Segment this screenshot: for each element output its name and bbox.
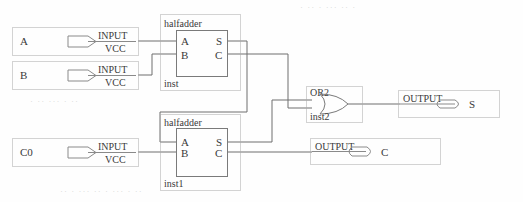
input-b-signal-label: B [20,69,27,81]
output-s-type-label: OUTPUT [403,93,442,104]
input-b-power-label: VCC [105,77,126,88]
wire-b-to-inst-b [138,54,176,75]
halfadder-inst-port-a-label: A [181,35,189,47]
halfadder-inst-port-b-label: B [181,49,188,61]
schematic-canvas: · ·· · ··· ·· · · ·· ··· · ·· ·· · ··· ·… [0,0,523,202]
input-a-signal-label: A [20,35,28,47]
halfadder-inst-instance-label: inst [164,78,179,89]
halfadder-inst1-instance-label: inst1 [164,178,183,189]
input-a-power-label: VCC [105,43,126,54]
output-block-c[interactable]: OUTPUT C [311,139,441,165]
or2-instance-label: inst2 [310,111,329,122]
halfadder-inst1-port-c-label: C [215,147,222,159]
or2-type-label: OR2 [310,87,329,98]
schematic-drawing: A INPUT VCC B INPUT VCC C0 INPUT VCC [0,0,523,202]
output-c-signal-label: C [381,146,388,158]
output-block-s[interactable]: OUTPUT S [399,91,500,118]
wire-inst1-s-to-or2-in1 [227,100,312,142]
halfadder-inst1-port-b-label: B [181,147,188,159]
output-s-signal-label: S [469,98,475,110]
input-c0-power-label: VCC [105,154,126,165]
input-block-c0[interactable]: C0 INPUT VCC [13,139,139,167]
input-block-a[interactable]: A INPUT VCC [13,28,139,56]
input-a-type-label: INPUT [98,30,127,41]
halfadder-inst-port-c-label: C [215,49,222,61]
input-block-b[interactable]: B INPUT VCC [13,62,139,90]
input-c0-signal-label: C0 [20,146,33,158]
halfadder-inst-port-s-label: S [216,35,222,47]
halfadder-inst-type-label: halfadder [164,18,202,29]
input-b-type-label: INPUT [98,64,127,75]
output-c-type-label: OUTPUT [315,141,354,152]
halfadder-inst1-type-label: halfadder [164,117,202,128]
component-halfadder-inst[interactable]: halfadder A B S C inst [161,15,241,91]
input-c0-type-label: INPUT [98,141,127,152]
